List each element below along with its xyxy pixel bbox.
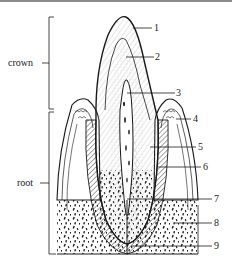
callout-6: 6 — [203, 161, 208, 172]
callout-5: 5 — [198, 141, 203, 152]
root-bracket — [40, 112, 56, 254]
callout-4: 4 — [193, 113, 198, 124]
callout-3: 3 — [176, 87, 181, 98]
crown-label: crown — [8, 57, 33, 68]
crown-bracket — [42, 17, 54, 109]
callout-2: 2 — [155, 51, 160, 62]
callout-7: 7 — [214, 193, 219, 204]
callout-8: 8 — [214, 217, 219, 228]
callout-1: 1 — [154, 22, 159, 33]
callout-9: 9 — [214, 240, 219, 251]
root-label: root — [17, 177, 33, 188]
tooth-diagram: crown root — [0, 0, 232, 263]
